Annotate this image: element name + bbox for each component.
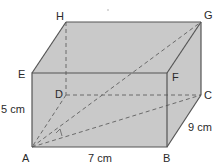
vertex-label-B: B (163, 152, 170, 164)
front-face (32, 73, 167, 147)
vertex-label-H: H (56, 10, 64, 22)
stray-dot (107, 9, 108, 10)
length-label: 7 cm (88, 152, 112, 164)
vertex-label-G: G (204, 9, 213, 21)
vertex-label-F: F (172, 71, 179, 83)
vertex-label-C: C (204, 89, 212, 101)
vertex-label-D: D (55, 88, 63, 100)
depth-label: 9 cm (188, 121, 212, 133)
vertex-label-A: A (22, 152, 30, 164)
vertex-label-E: E (18, 68, 25, 80)
cuboid-diagram: H G E F D C A B 5 cm 7 cm 9 cm (0, 0, 218, 166)
height-label: 5 cm (1, 103, 25, 115)
